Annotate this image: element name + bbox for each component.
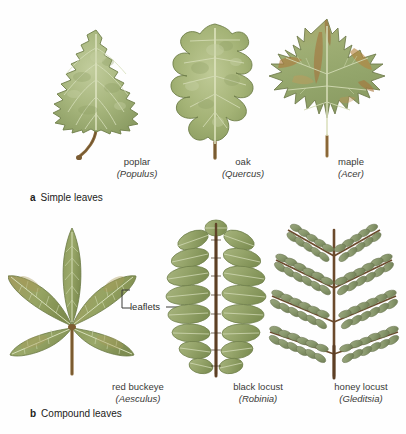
pinna [268,325,334,365]
oak-leaf-icon [162,18,272,166]
poplar-leaf-illustration [38,22,158,172]
pinna [333,223,383,264]
leaflet [10,328,72,356]
black-locust-leaf-illustration [164,216,268,384]
section-tag-b: b [30,408,36,419]
black-locust-caption: black locust (Robinia) [216,381,300,404]
leaflets-left-bracket-icon [118,288,132,314]
black-locust-leaf-icon [164,216,268,384]
poplar-scientific-name: (Populus) [101,168,173,180]
leaf-morphology-figure: poplar (Populus) [0,0,406,434]
oak-common-name: oak [235,156,250,167]
poplar-common-name: poplar [124,156,150,167]
maple-leaf-icon [264,14,392,166]
red-buckeye-common-name: red buckeye [112,381,164,392]
section-name-simple: Simple leaves [41,192,103,203]
red-buckeye-scientific-name: (Aesculus) [96,393,180,405]
oak-leaf-illustration [162,18,272,166]
leaflet [8,273,72,326]
pinna [285,223,335,264]
maple-caption: maple (Acer) [317,156,385,179]
section-tag-a: a [30,192,36,203]
honey-locust-leaf-illustration [266,216,402,384]
black-locust-scientific-name: (Robinia) [216,393,300,405]
section-name-compound: Compound leaves [41,408,122,419]
honey-locust-common-name: honey locust [334,381,387,392]
honey-locust-scientific-name: (Gleditsia) [318,393,404,405]
pinna [334,325,400,365]
pinna [269,289,334,331]
pinna [334,289,399,331]
oak-scientific-name: (Quercus) [210,168,276,180]
section-label-compound-leaves: bCompound leaves [30,408,122,419]
leaflet [72,328,134,356]
maple-scientific-name: (Acer) [317,168,385,180]
maple-leaf-illustration [264,14,392,166]
red-buckeye-caption: red buckeye (Aesculus) [96,381,180,404]
honey-locust-caption: honey locust (Gleditsia) [318,381,404,404]
poplar-leaf-icon [38,22,158,172]
maple-common-name: maple [338,156,364,167]
section-label-simple-leaves: aSimple leaves [30,192,103,203]
honey-locust-leaf-icon [266,216,402,384]
leaflets-annotation-label: leaflets [130,301,160,312]
leaflet [63,228,81,324]
